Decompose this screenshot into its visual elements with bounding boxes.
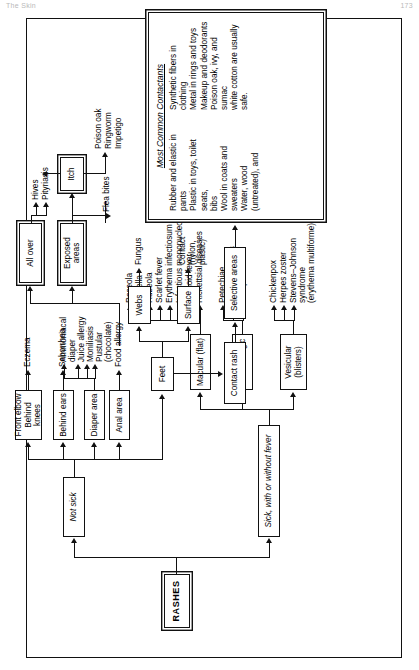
panel-most-common-contactants: Most Common Contactants Rubber and elast…	[148, 12, 324, 220]
node-feet[interactable]: Feet	[151, 357, 174, 391]
node-macular[interactable]: Macular (flat)	[190, 334, 211, 390]
leaf-erythema-multiforme: (erythema multiforme)	[307, 223, 317, 303]
line-to-feet	[162, 398, 163, 460]
node-selective-areas[interactable]: Selective areas	[224, 247, 246, 319]
vesicular-leaf-bus	[293, 320, 294, 334]
node-rashes[interactable]: RASHES	[164, 574, 190, 628]
arrow-to-ears	[60, 442, 66, 447]
feet-split-h	[162, 341, 163, 357]
itch-leaf-bus	[105, 156, 106, 174]
node-contact-rash[interactable]: Contact rash	[224, 342, 246, 404]
macular-arrow-5	[167, 305, 173, 310]
leaf-poison-oak: Poison oak	[94, 108, 104, 149]
arrow-itch-to-hives	[42, 171, 47, 177]
node-webs[interactable]: Webs	[128, 286, 151, 324]
macular-leaf-bus	[200, 320, 201, 334]
macular-arrow-4	[157, 305, 163, 310]
arrow-to-macular	[197, 392, 203, 397]
node-itch[interactable]: Itch	[60, 157, 84, 191]
arrow-to-selective	[232, 322, 238, 327]
itch-leaf-spine	[84, 173, 106, 174]
diaper-leaf-spine	[64, 378, 95, 379]
diaper-leaf-4	[95, 368, 96, 379]
diaper-arrow-3	[84, 364, 90, 369]
node-sick-with-fever[interactable]: Sick, with or without fever	[258, 425, 280, 537]
node-all-over[interactable]: All over	[19, 223, 42, 283]
leaf-contact: Contact	[178, 237, 188, 265]
vesicular-leaf-1	[274, 309, 275, 321]
leaf-fungus: Fungus	[134, 238, 144, 265]
contactants-column-right: Synthetic fibers in clothing Metal in ri…	[169, 21, 261, 110]
arrow-to-diaper	[91, 442, 97, 447]
vesicular-leaf-2	[284, 309, 285, 321]
allover-leaf-1	[36, 206, 37, 216]
leaf-chickenpox: Chickenpox	[269, 260, 279, 303]
page-number: 173	[400, 2, 413, 9]
allover-leaf-spine	[31, 215, 47, 216]
elbow-leaf-bus	[28, 374, 29, 390]
vesicular-arrow-2	[281, 305, 287, 310]
diaper-leaf-bus	[94, 378, 95, 390]
exposed-feed-h	[119, 303, 120, 346]
leaf-pustular-chocolate: (chocolate)	[104, 321, 114, 362]
notsick-spine-2	[28, 459, 29, 460]
sick-spine	[200, 409, 294, 410]
node-not-sick[interactable]: Not sick	[63, 477, 85, 537]
rashes-flowchart: RASHES Sick, with or without fever Vesic…	[2, 0, 374, 636]
allover-feed-v	[30, 303, 72, 304]
surface-leaf-bus	[188, 272, 189, 286]
diaper-arrow-2	[75, 364, 81, 369]
arrow-to-allover	[27, 286, 33, 291]
arrow-to-contact-rash	[218, 371, 223, 377]
line-to-webs	[139, 330, 140, 342]
exposed-arrow-1	[106, 213, 111, 219]
line-to-notsick	[74, 542, 75, 558]
arrow-to-exposed	[69, 286, 75, 291]
node-diaper-area[interactable]: Diaper area	[84, 390, 105, 440]
leaf-contact-nylon: (nylon,	[188, 240, 198, 265]
leaf-impetigo: Impetigo	[114, 118, 124, 149]
notsick-spine-feed	[74, 459, 75, 477]
macular-leaf-8	[200, 309, 201, 321]
diaper-leaf-2	[78, 368, 79, 379]
leaf-erythema-infectiosum: Erythema infectiosum	[165, 224, 175, 303]
line-to-macular	[200, 396, 201, 410]
itch-arrow-out	[102, 152, 108, 157]
leaf-eczema-text: Eczema	[23, 337, 33, 367]
node-vesicular[interactable]: Vesicular (blisters)	[280, 334, 307, 390]
line-to-sick	[269, 542, 270, 558]
node-surface[interactable]: Surface	[177, 286, 200, 324]
node-anal-area[interactable]: Anal area	[109, 390, 130, 440]
arrow-to-surface	[185, 326, 191, 331]
line-to-surface	[188, 330, 189, 342]
allover-leaf-bus	[31, 215, 32, 223]
node-front-elbow-behind-knees[interactable]: Front elbow Behind knees	[15, 390, 42, 440]
node-elbow-line2: Behind knees	[24, 393, 43, 437]
arrow-to-vesicular	[290, 392, 296, 397]
vesicular-arrow-1	[271, 305, 277, 310]
arrow-to-elbow	[25, 442, 31, 447]
node-behind-ears[interactable]: Behind ears	[53, 390, 74, 440]
allover-leaf-2	[46, 206, 47, 216]
hemorrhagic-leaf-bus	[242, 320, 243, 334]
arrow-to-anal	[116, 442, 122, 447]
leaf-contact-plastic: plastic)	[198, 239, 208, 265]
line-to-diaper	[94, 446, 95, 460]
node-exposed-areas[interactable]: Exposed areas	[60, 223, 84, 283]
trunk-from-root	[176, 557, 177, 574]
contactants-title: Most Common Contactants	[155, 21, 165, 211]
elbow-arrow-1	[25, 370, 31, 375]
ears-leaf-bus	[63, 374, 64, 390]
line-to-ears	[63, 446, 64, 460]
macular-leaf-4	[160, 309, 161, 321]
webs-arrow-1	[136, 268, 142, 273]
vesicular-arrow-3	[291, 305, 297, 310]
selective-to-panel	[235, 229, 236, 247]
arrow-to-contactants	[232, 225, 238, 230]
arrow-exposed-to-itch	[69, 193, 75, 198]
exposed-leaf-spine	[72, 215, 106, 216]
exposed-feed-v	[72, 303, 120, 304]
macular-leaf-5	[170, 309, 171, 321]
sick-spine-feed	[269, 409, 270, 425]
diaper-leaf-3	[87, 368, 88, 379]
